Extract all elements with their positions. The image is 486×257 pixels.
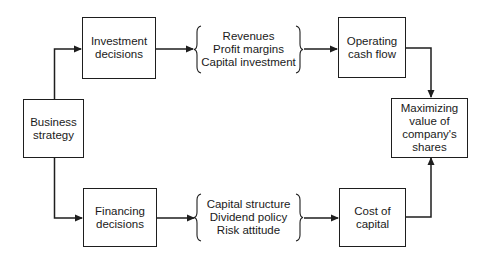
investment-factors-group: Revenues Profit margins Capital investme… — [202, 26, 295, 73]
node-label-line: strategy — [33, 129, 74, 142]
node-label-line: Cost of — [354, 205, 390, 218]
left-brace-icon — [194, 26, 201, 73]
right-brace-icon — [296, 194, 303, 241]
node-label-line: Operating — [347, 35, 398, 48]
node-label-line: Investment — [91, 35, 147, 48]
edge-business-to-investment — [55, 49, 82, 99]
edge-cashflow-to-maximizing — [406, 48, 431, 97]
financing-factors-group: Capital structure Dividend policy Risk a… — [202, 194, 295, 241]
factor-item: Risk attitude — [217, 224, 280, 237]
node-label-line: decisions — [95, 48, 143, 61]
node-investment-decisions: Investment decisions — [82, 17, 156, 79]
node-label-line: value of — [409, 115, 449, 128]
left-brace-icon — [194, 194, 201, 241]
edge-cost-to-maximizing — [406, 158, 431, 217]
factor-item: Dividend policy — [210, 211, 287, 224]
node-financing-decisions: Financing decisions — [83, 188, 157, 247]
node-operating-cash-flow: Operating cash flow — [338, 17, 406, 78]
node-label-line: Business — [30, 116, 77, 129]
factor-item: Capital structure — [207, 198, 291, 211]
node-label-line: decisions — [96, 218, 144, 231]
node-label-line: capital — [356, 218, 389, 231]
node-label-line: cash flow — [348, 48, 396, 61]
factor-item: Profit margins — [213, 43, 284, 56]
node-maximizing-value: Maximizing value of company's shares — [391, 98, 468, 158]
node-label-line: company's — [402, 128, 457, 141]
right-brace-icon — [296, 26, 303, 73]
node-cost-of-capital: Cost of capital — [339, 188, 406, 247]
factor-item: Revenues — [223, 30, 275, 43]
node-business-strategy: Business strategy — [23, 99, 84, 158]
node-label-line: Maximizing — [401, 102, 459, 115]
node-label-line: Financing — [95, 205, 145, 218]
factor-item: Capital investment — [201, 56, 296, 69]
node-label-line: shares — [412, 141, 447, 154]
edge-business-to-financing — [55, 157, 83, 218]
